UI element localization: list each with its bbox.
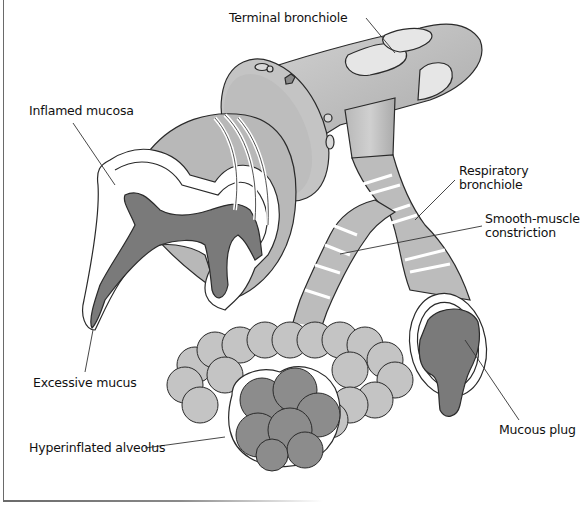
bronchus-cross-section (83, 114, 296, 330)
leader-excessive-mucus (85, 330, 93, 372)
label-inflamed-mucosa: Inflamed mucosa (29, 104, 134, 118)
respiratory-bronchiole (352, 155, 494, 416)
label-smooth-muscle-line1: Smooth-muscle (485, 212, 580, 226)
hyperinflated-alveolus (229, 367, 340, 471)
label-respiratory-bronchiole-line2: bronchiole (459, 178, 522, 192)
label-hyperinflated-alveolus: Hyperinflated alveolus (29, 441, 165, 455)
label-excessive-mucus: Excessive mucus (33, 376, 137, 390)
label-mucous-plug: Mucous plug (499, 423, 576, 437)
leader-respiratory-bronchiole (415, 180, 455, 220)
label-smooth-muscle-line2: constriction (485, 226, 556, 240)
alveolar-cluster (167, 322, 413, 471)
label-respiratory-bronchiole-line1: Respiratory (459, 164, 528, 178)
leader-inflamed-mucosa (73, 123, 115, 185)
label-terminal-bronchiole: Terminal bronchiole (229, 11, 347, 25)
